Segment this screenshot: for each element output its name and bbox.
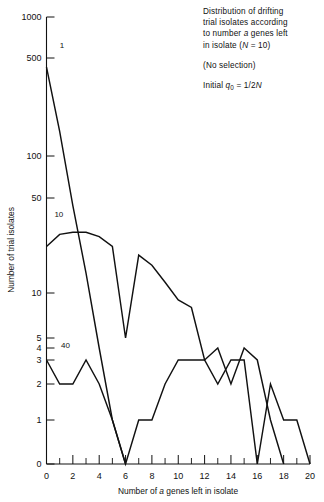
y-tick-label-3: 3 [36, 355, 41, 365]
x-tick-label-8: 8 [149, 471, 154, 481]
y-axis-tick-labels: 01234510501005001000 [21, 12, 41, 469]
caption-initial-equals: = 1/2 [234, 81, 256, 90]
caption-initial-condition: Initial q0 = 1/2N [203, 80, 321, 93]
figure-caption: Distribution of drifting trial isolates … [203, 6, 321, 93]
x-tick-label-6: 6 [123, 471, 128, 481]
y-tick-label-2: 2 [36, 379, 41, 389]
y-tick-label-1: 1 [36, 415, 41, 425]
x-axis-ticks [47, 455, 311, 464]
x-tick-label-2: 2 [70, 471, 75, 481]
x-tick-label-18: 18 [279, 471, 289, 481]
x-tick-label-20: 20 [305, 471, 315, 481]
x-axis-title-post: genes left in isolate [164, 486, 238, 496]
series-label-40: 40 [61, 341, 70, 350]
x-tick-label-16: 16 [252, 471, 262, 481]
caption-main: Distribution of drifting trial isolates … [203, 6, 321, 51]
x-tick-label-10: 10 [173, 471, 183, 481]
data-series-group [47, 67, 311, 464]
x-tick-label-14: 14 [226, 471, 236, 481]
figure-container: Distribution of drifting trial isolates … [0, 0, 324, 502]
series-label-10: 10 [54, 210, 63, 219]
x-axis-title: Number of a genes left in isolate [118, 486, 238, 496]
caption-line-4-post: = 10) [248, 41, 270, 50]
series-line-40 [47, 360, 311, 464]
y-tick-label-1000: 1000 [21, 12, 41, 22]
x-tick-label-0: 0 [44, 471, 49, 481]
caption-line-3-pre: to number [203, 29, 244, 38]
y-tick-label-0: 0 [36, 459, 41, 469]
caption-line-2: trial isolates according [203, 18, 288, 27]
y-tick-label-500: 500 [26, 53, 41, 63]
x-axis-title-pre: Number of [118, 486, 159, 496]
caption-initial-N: N [256, 81, 262, 90]
series-line-1 [47, 67, 126, 464]
y-tick-label-5: 5 [36, 333, 41, 343]
y-tick-label-4: 4 [36, 343, 41, 353]
series-label-1: 1 [60, 41, 65, 50]
caption-initial-prefix: Initial [203, 81, 226, 90]
caption-no-selection: (No selection) [203, 60, 321, 71]
series-labels-group: 11040 [54, 41, 70, 349]
y-tick-label-100: 100 [26, 151, 41, 161]
caption-line-1: Distribution of drifting [203, 7, 284, 16]
y-tick-label-10: 10 [31, 288, 41, 298]
caption-line-4-pre: in isolate ( [203, 41, 242, 50]
x-axis-tick-labels: 02468101214161820 [44, 471, 315, 481]
x-tick-label-12: 12 [200, 471, 210, 481]
y-axis-title: Number of trial isolates [6, 207, 16, 293]
caption-line-3-post: genes left [248, 29, 287, 38]
series-line-10 [47, 232, 284, 464]
y-tick-label-50: 50 [31, 193, 41, 203]
x-tick-label-4: 4 [97, 471, 102, 481]
